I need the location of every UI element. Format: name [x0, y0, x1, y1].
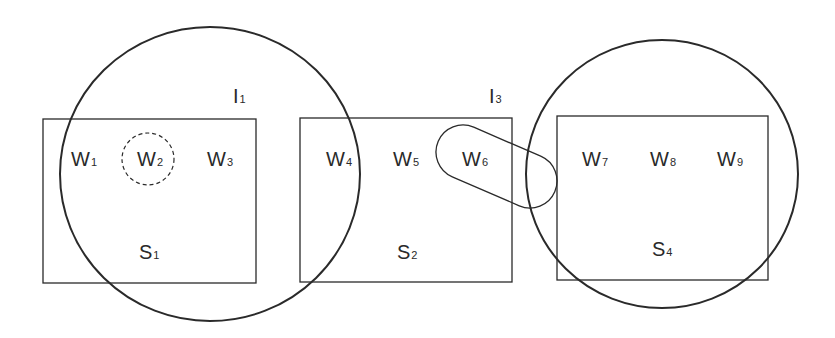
intention-label-i1: I1 [233, 85, 246, 107]
word-label-w5-subscript: 5 [413, 156, 419, 168]
sentence-label-s2: S2 [397, 241, 417, 263]
diagram-canvas: S1S2S4I1I3W1W2W3W4W5W6W7W8W9 [0, 0, 835, 338]
word-label-w1: W1 [71, 148, 97, 170]
intention-label-i3-text: I [489, 85, 495, 107]
word-label-w2-subscript: 2 [157, 156, 163, 168]
intention-circle-i3 [526, 40, 798, 308]
word-label-w3-text: W [207, 148, 226, 170]
word-label-w6-subscript: 6 [482, 156, 488, 168]
diagram-shapes [43, 27, 798, 321]
intention-label-i3-subscript: 3 [496, 93, 502, 105]
sentence-label-s4: S4 [652, 238, 672, 260]
word-label-w9-text: W [717, 148, 736, 170]
word-label-w3: W3 [207, 148, 233, 170]
word-label-w2-text: W [137, 148, 156, 170]
intention-label-i1-text: I [233, 85, 239, 107]
word-label-w8: W8 [650, 148, 676, 170]
diagram-labels: S1S2S4I1I3W1W2W3W4W5W6W7W8W9 [71, 85, 743, 263]
capsule-w6 [427, 116, 565, 216]
sentence-label-s4-text: S [652, 238, 665, 260]
word-label-w7: W7 [582, 148, 608, 170]
word-label-w8-text: W [650, 148, 669, 170]
word-label-w7-text: W [582, 148, 601, 170]
word-label-w7-subscript: 7 [602, 156, 608, 168]
word-label-w9: W9 [717, 148, 743, 170]
word-label-w4: W4 [326, 148, 352, 170]
word-label-w4-text: W [326, 148, 345, 170]
sentence-label-s2-subscript: 2 [411, 249, 417, 261]
intention-label-i1-subscript: 1 [240, 93, 246, 105]
sentence-label-s2-text: S [397, 241, 410, 263]
word-label-w6: W6 [462, 148, 488, 170]
word-label-w6-text: W [462, 148, 481, 170]
word-label-w1-text: W [71, 148, 90, 170]
sentence-label-s4-subscript: 4 [666, 246, 672, 258]
sentence-label-s1: S1 [139, 241, 159, 263]
word-label-w5: W5 [393, 148, 419, 170]
intention-label-i3: I3 [489, 85, 502, 107]
word-label-w2: W2 [137, 148, 163, 170]
word-label-w1-subscript: 1 [91, 156, 97, 168]
sentence-label-s1-subscript: 1 [153, 249, 159, 261]
word-label-w5-text: W [393, 148, 412, 170]
intention-circle-i1 [60, 27, 360, 321]
word-label-w3-subscript: 3 [227, 156, 233, 168]
word-label-w8-subscript: 8 [670, 156, 676, 168]
word-label-w9-subscript: 9 [737, 156, 743, 168]
word-label-w4-subscript: 4 [346, 156, 352, 168]
sentence-label-s1-text: S [139, 241, 152, 263]
